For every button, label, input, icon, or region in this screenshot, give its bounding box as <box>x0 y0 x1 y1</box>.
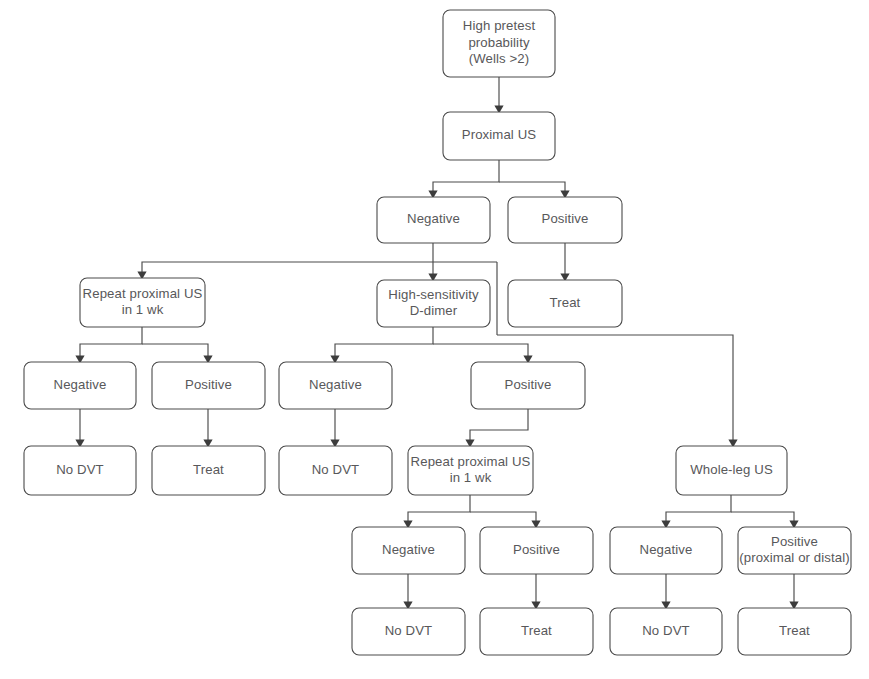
node-proximal-us-positive[interactable]: Positive <box>508 197 622 243</box>
edge-d-dimer-split-line <box>335 327 433 356</box>
edge-repeat-left-split <box>75 327 142 364</box>
edge-positive-to-treat <box>560 243 569 282</box>
edge-whole-leg-split <box>661 495 731 529</box>
edge-negative-to-repeat-left-line <box>142 262 497 272</box>
edge-rm-pos-to-treat <box>531 574 540 610</box>
edge-proximal-us-split-right <box>499 182 570 199</box>
edge-repeat-left-split-right <box>142 344 213 364</box>
edge-repeat-left-split-line <box>80 327 142 356</box>
edge-whole-leg-split-right-line <box>731 512 794 521</box>
edge-dd-pos-to-repeat-middle <box>465 409 528 448</box>
node-whole-leg-us[interactable]: Whole-leg US <box>676 446 787 495</box>
edge-dd-neg-to-nodvt <box>330 409 339 448</box>
node-label-no-dvt-whole-leg-line-0: No DVT <box>642 623 690 638</box>
edge-repeat-middle-split <box>403 495 470 529</box>
node-proximal-us[interactable]: Proximal US <box>443 112 555 160</box>
node-label-high-sensitivity-d-dimer-line-1: D-dimer <box>410 303 458 318</box>
node-high-sensitivity-d-dimer[interactable]: High-sensitivityD-dimer <box>377 280 490 327</box>
edge-proximal-us-split <box>428 160 499 199</box>
node-label-treat-middle-line-0: Treat <box>521 623 552 638</box>
node-whole-leg-us-positive[interactable]: Positive(proximal or distal) <box>738 527 851 574</box>
node-no-dvt-d-dimer-negative[interactable]: No DVT <box>279 446 392 495</box>
node-repeat-us-left-positive[interactable]: Positive <box>152 362 265 409</box>
flowchart-canvas: High pretestprobability(Wells >2)Proxima… <box>0 0 869 679</box>
node-label-no-dvt-middle-line-0: No DVT <box>385 623 433 638</box>
node-no-dvt-whole-leg[interactable]: No DVT <box>610 608 722 655</box>
edge-d-dimer-split-right-line <box>433 344 528 356</box>
node-treat-left-1[interactable]: Treat <box>152 446 265 495</box>
node-label-repeat-us-left-positive-line-0: Positive <box>185 377 232 392</box>
node-label-no-dvt-d-dimer-negative-line-0: No DVT <box>312 462 360 477</box>
node-whole-leg-us-negative[interactable]: Negative <box>610 527 722 574</box>
node-label-proximal-us-negative-line-0: Negative <box>407 211 460 226</box>
node-label-repeat-proximal-us-left-line-1: in 1 wk <box>122 302 164 317</box>
node-label-repeat-us-middle-negative-line-0: Negative <box>382 542 435 557</box>
edge-dd-pos-to-repeat-middle-line <box>470 409 528 440</box>
node-label-high-pretest-probability-line-1: probability <box>468 35 530 50</box>
edge-wl-neg-to-nodvt <box>661 574 670 610</box>
edge-repeat-middle-split-line <box>408 495 470 521</box>
node-label-proximal-us-positive-line-0: Positive <box>542 211 589 226</box>
node-label-repeat-us-left-negative-line-0: Negative <box>54 377 107 392</box>
node-no-dvt-left-1[interactable]: No DVT <box>24 446 136 495</box>
node-repeat-us-left-negative[interactable]: Negative <box>24 362 136 409</box>
node-high-pretest-probability[interactable]: High pretestprobability(Wells >2) <box>443 10 555 77</box>
node-label-whole-leg-us-line-0: Whole-leg US <box>690 462 773 477</box>
edge-wl-pos-to-treat <box>789 574 798 610</box>
edge-whole-leg-split-right <box>731 512 799 529</box>
node-repeat-us-middle-positive[interactable]: Positive <box>480 527 593 574</box>
node-label-treat-left-1-line-0: Treat <box>193 462 224 477</box>
edge-negative-to-repeat-left <box>137 262 497 280</box>
edge-rl-pos-to-treat <box>203 409 212 448</box>
node-treat-whole-leg[interactable]: Treat <box>738 608 851 655</box>
edge-proximal-us-split-right-line <box>499 182 565 191</box>
node-label-repeat-proximal-us-middle-line-1: in 1 wk <box>450 470 492 485</box>
edge-d-dimer-split-right <box>433 344 533 364</box>
node-d-dimer-negative[interactable]: Negative <box>279 362 392 409</box>
node-treat-middle[interactable]: Treat <box>480 608 593 655</box>
node-label-high-pretest-probability-line-0: High pretest <box>463 18 536 33</box>
node-layer: High pretestprobability(Wells >2)Proxima… <box>24 10 851 655</box>
edge-d-dimer-split <box>330 327 433 364</box>
node-label-high-pretest-probability-line-2: (Wells >2) <box>469 51 529 66</box>
node-label-whole-leg-us-negative-line-0: Negative <box>640 542 693 557</box>
node-label-repeat-proximal-us-middle-line-0: Repeat proximal US <box>411 454 531 469</box>
dvt-algorithm-flowchart: High pretestprobability(Wells >2)Proxima… <box>0 0 869 679</box>
node-label-repeat-proximal-us-left-line-0: Repeat proximal US <box>83 286 203 301</box>
edge-rm-neg-to-nodvt <box>403 574 412 610</box>
node-d-dimer-positive[interactable]: Positive <box>471 362 585 409</box>
edge-repeat-middle-split-right-line <box>470 512 536 521</box>
node-label-high-sensitivity-d-dimer-line-0: High-sensitivity <box>388 287 479 302</box>
node-repeat-us-middle-negative[interactable]: Negative <box>352 527 465 574</box>
node-repeat-proximal-us-middle[interactable]: Repeat proximal USin 1 wk <box>408 446 533 495</box>
node-label-treat-from-positive-us-line-0: Treat <box>550 295 581 310</box>
node-repeat-proximal-us-left[interactable]: Repeat proximal USin 1 wk <box>80 278 205 327</box>
node-label-whole-leg-us-positive-line-0: Positive <box>771 534 818 549</box>
node-label-repeat-us-middle-positive-line-0: Positive <box>513 542 560 557</box>
edge-proximal-us-split-line <box>433 160 499 191</box>
node-treat-from-positive-us[interactable]: Treat <box>508 280 622 327</box>
edge-repeat-left-split-right-line <box>142 344 208 356</box>
edge-repeat-middle-split-right <box>470 512 541 529</box>
node-label-proximal-us-line-0: Proximal US <box>462 127 536 142</box>
edge-pretest-to-proximal-us <box>494 77 503 114</box>
node-label-treat-whole-leg-line-0: Treat <box>779 623 810 638</box>
node-label-d-dimer-positive-line-0: Positive <box>505 377 552 392</box>
edge-whole-leg-split-line <box>666 495 731 521</box>
node-label-no-dvt-left-1-line-0: No DVT <box>56 462 104 477</box>
node-label-d-dimer-negative-line-0: Negative <box>309 377 362 392</box>
node-no-dvt-middle[interactable]: No DVT <box>352 608 465 655</box>
edge-rl-neg-to-nodvt <box>75 409 84 448</box>
node-proximal-us-negative[interactable]: Negative <box>377 197 490 243</box>
node-label-whole-leg-us-positive-line-1: (proximal or distal) <box>739 550 849 565</box>
